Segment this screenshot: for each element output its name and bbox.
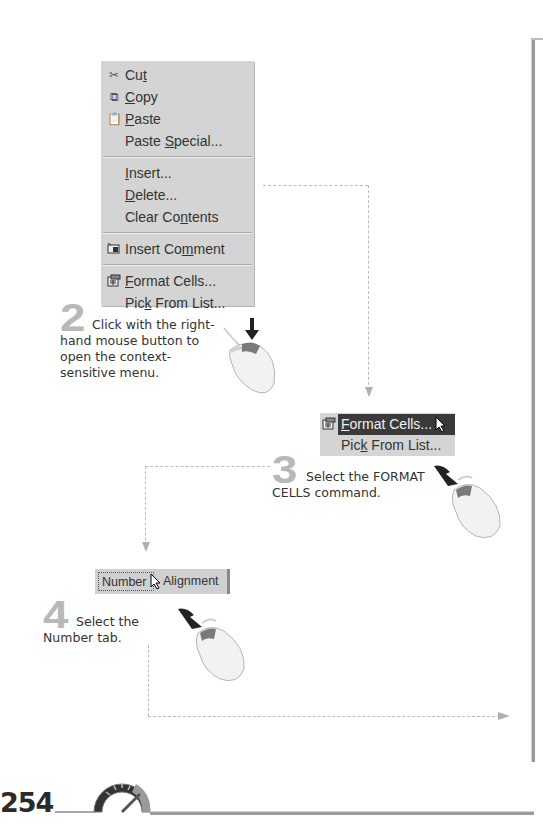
dialog-tab-strip: Number Alignment	[95, 569, 230, 594]
arrow-right-icon	[498, 712, 510, 720]
step-4: 4 Select the Number tab.	[43, 600, 163, 646]
menu-item-copy[interactable]: ⧉ Copy	[101, 86, 254, 108]
menu-item-clear-contents[interactable]: Clear Contents	[101, 206, 254, 228]
menu-item-cut[interactable]: ✂ Cut	[101, 64, 254, 86]
connector-line	[263, 185, 368, 186]
arrow-down-icon	[365, 387, 373, 397]
menu-item-paste[interactable]: 📋 Paste	[101, 108, 254, 130]
page-number: 254	[0, 787, 53, 818]
tab-number[interactable]: Number	[98, 572, 154, 591]
menu-item-format-cells-highlighted[interactable]: Format Cells...	[320, 414, 455, 435]
step-number: 3	[272, 455, 297, 485]
format-cells-icon	[322, 417, 336, 431]
menu-separator	[103, 232, 252, 234]
format-cells-menu-snippet: Format Cells... Pick From List...	[320, 413, 455, 456]
menu-separator	[103, 264, 252, 266]
mouse-pointer-icon	[435, 416, 447, 433]
copy-icon: ⧉	[107, 90, 121, 104]
connector-line	[145, 466, 146, 546]
footer-rule	[150, 811, 534, 815]
menu-item-pick-from-list[interactable]: Pick From List...	[320, 435, 455, 456]
format-cells-icon	[107, 274, 121, 288]
speedometer-icon	[92, 762, 152, 814]
arrow-down-icon	[142, 542, 150, 552]
connector-line	[145, 466, 270, 467]
context-menu: ✂ Cut ⧉ Copy 📋 Paste Paste Special... In…	[101, 61, 254, 306]
connector-line	[148, 716, 500, 717]
mouse-right-click-illustration	[222, 318, 282, 396]
mouse-left-click-illustration	[176, 605, 251, 685]
menu-item-paste-special[interactable]: Paste Special...	[101, 130, 254, 152]
connector-line	[148, 645, 149, 716]
tab-alignment[interactable]: Alignment	[163, 572, 219, 591]
step-number: 2	[60, 303, 85, 333]
scissors-icon: ✂	[107, 68, 121, 82]
step-3: 3 Select the FORMAT CELLS command.	[272, 455, 452, 501]
page-frame-right	[531, 40, 535, 762]
mouse-pointer-icon	[150, 573, 162, 590]
step-2: 2 Click with the right- hand mouse butto…	[60, 303, 225, 381]
connector-line	[368, 185, 369, 395]
paste-icon: 📋	[107, 112, 121, 126]
menu-item-insert[interactable]: Insert...	[101, 162, 254, 184]
menu-item-format-cells[interactable]: Format Cells...	[101, 270, 254, 292]
mouse-left-click-illustration	[432, 462, 507, 542]
step-number: 4	[43, 600, 68, 630]
comment-icon	[107, 242, 121, 256]
menu-item-delete[interactable]: Delete...	[101, 184, 254, 206]
menu-separator	[103, 156, 252, 158]
footer-rule	[55, 811, 95, 813]
menu-item-insert-comment[interactable]: Insert Comment	[101, 238, 254, 260]
